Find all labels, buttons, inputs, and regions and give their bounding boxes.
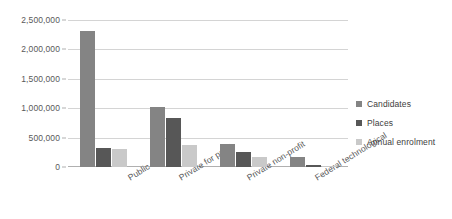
y-axis-tick-mark: [62, 20, 66, 21]
y-axis-tick-mark: [62, 108, 66, 109]
bar: [290, 157, 305, 167]
bar: [236, 152, 251, 167]
y-axis-tick-mark: [62, 78, 66, 79]
y-axis-tick-mark: [62, 167, 66, 168]
bar: [166, 118, 181, 167]
bar: [252, 157, 267, 167]
y-axis-tick-label: 2,000,000: [21, 44, 60, 54]
y-axis-tick-label: 1,500,000: [21, 74, 60, 84]
legend-label: Candidates: [367, 99, 411, 109]
y-axis-tick-mark: [62, 49, 66, 50]
bar: [96, 148, 111, 167]
legend-item[interactable]: Annual enrolment: [356, 137, 435, 147]
y-axis-tick-label: 2,500,000: [21, 15, 60, 25]
bar: [306, 165, 321, 167]
bar-group: [208, 20, 278, 167]
x-axis-labels: PublicPrivate for profitPrivate non-prof…: [68, 168, 348, 219]
bar: [220, 144, 235, 167]
legend-swatch-icon: [356, 101, 362, 107]
bar-group: [138, 20, 208, 167]
bar: [150, 107, 165, 167]
x-axis-label-slot: Private non-profit: [208, 168, 278, 186]
x-axis-label-slot: Federal technological: [278, 168, 348, 186]
y-axis-tick-label: 1,000,000: [21, 103, 60, 113]
bar: [112, 149, 127, 167]
x-axis-label-slot: Private for profit: [138, 168, 208, 186]
chart-legend: CandidatesPlacesAnnual enrolment: [356, 99, 435, 147]
bar: [80, 31, 95, 167]
y-axis-tick-mark: [62, 137, 66, 138]
legend-label: Places: [367, 118, 393, 128]
bar-chart: 0500,0001,000,0001,500,0002,000,0002,500…: [0, 0, 452, 219]
bar: [322, 166, 337, 167]
bar-group: [278, 20, 348, 167]
legend-swatch-icon: [356, 120, 362, 126]
bar: [182, 145, 197, 167]
y-axis-tick-label: 0: [55, 162, 60, 172]
legend-label: Annual enrolment: [367, 137, 435, 147]
y-axis-tick-label: 500,000: [29, 133, 60, 143]
bar-group: [68, 20, 138, 167]
legend-item[interactable]: Places: [356, 118, 435, 128]
legend-swatch-icon: [356, 139, 362, 145]
x-axis-label-slot: Public: [68, 168, 138, 186]
legend-item[interactable]: Candidates: [356, 99, 435, 109]
y-axis: 0500,0001,000,0001,500,0002,000,0002,500…: [0, 0, 66, 167]
